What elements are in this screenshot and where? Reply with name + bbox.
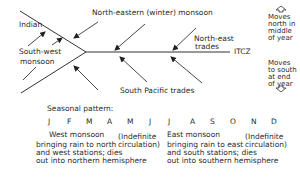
label-ne-monsoon: North-eastern (winter) monsoon [92, 9, 213, 17]
arrow-sp-trades-2 [171, 57, 202, 83]
month: J [149, 117, 151, 126]
indefinite-circulation-1: (Indefinite circulation) [118, 133, 160, 149]
arrow-indian-1 [28, 32, 45, 46]
month: D [271, 117, 277, 126]
east-monsoon-heading: East monsoon [167, 131, 220, 139]
arrow-ne-monsoon-1 [74, 22, 98, 38]
month: S [210, 117, 215, 126]
label-south-west-1: South-west [19, 48, 61, 56]
month: O [230, 117, 236, 126]
arrow-ne-trades [173, 28, 196, 50]
indefinite-circulation-2: (Indefinite circulation) [245, 133, 287, 149]
up-arrow-outline-icon [276, 6, 286, 12]
arrow-sp-trades-1 [120, 57, 147, 82]
convergence-upper-line [20, 11, 86, 52]
arrow-sw-monsoon [23, 67, 36, 80]
month: A [107, 117, 112, 126]
seasonal-title: Seasonal pattern: [47, 105, 113, 113]
moves-south-line: of year [268, 81, 297, 88]
arrow-indian-2 [52, 38, 62, 45]
arrow-ne-monsoon-2 [115, 24, 145, 50]
indefinite-line: circulation) [118, 141, 160, 149]
month: M [127, 117, 133, 126]
month: A [190, 117, 195, 126]
indefinite-line: circulation) [245, 141, 287, 149]
month-row: J F M A M J J A S O N D [48, 117, 298, 127]
label-moves-south: Moves to south at end of year [268, 60, 297, 88]
label-south-pacific-trades: South Pacific trades [120, 87, 194, 95]
month: J [168, 117, 170, 126]
west-monsoon-line: out into northern hemisphere [36, 157, 147, 165]
label-ne-trades-2: trades [195, 43, 219, 51]
arrow-lower-left [74, 66, 98, 90]
label-south-west-2: monsoon [20, 58, 55, 66]
month: J [48, 117, 50, 126]
label-moves-north: Moves north in middle of year [268, 14, 295, 42]
month: F [67, 117, 71, 126]
label-itcz: ITCZ [234, 48, 251, 56]
month: M [86, 117, 92, 126]
east-monsoon-line: out into southern hemisphere [167, 157, 278, 165]
month: N [251, 117, 257, 126]
west-monsoon-heading: West monsoon [49, 131, 104, 139]
moves-north-line: of year [268, 35, 295, 42]
label-indian: Indian [19, 21, 42, 29]
